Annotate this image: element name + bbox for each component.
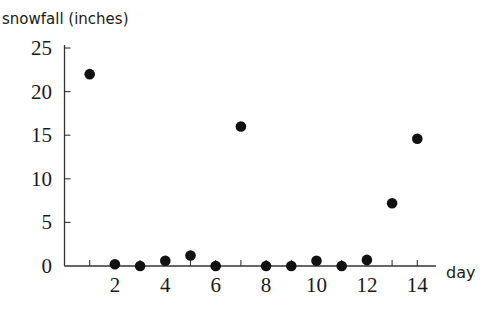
data-point xyxy=(362,255,373,266)
y-axis-title: snowfall (inches) xyxy=(2,10,129,28)
data-point xyxy=(311,255,322,266)
data-point xyxy=(84,69,95,80)
data-point xyxy=(261,261,272,272)
scatter-chart: snowfall (inches) day 0510152025 2468101… xyxy=(0,0,486,309)
axes xyxy=(65,45,437,266)
y-tick-label: 10 xyxy=(31,167,52,191)
x-tick-label: 4 xyxy=(160,273,171,297)
x-axis-title: day xyxy=(446,263,475,282)
data-point xyxy=(135,261,146,272)
data-point xyxy=(160,255,171,266)
x-tick-label: 2 xyxy=(110,273,121,297)
y-tick-label: 5 xyxy=(42,210,53,234)
y-tick-label: 0 xyxy=(42,254,53,278)
data-point xyxy=(185,250,196,261)
x-tick-label: 14 xyxy=(407,273,429,297)
x-tick-label: 10 xyxy=(306,273,327,297)
data-points xyxy=(84,69,422,271)
y-tick-label: 25 xyxy=(31,36,52,60)
data-point xyxy=(236,121,247,132)
x-tick-label: 8 xyxy=(261,273,272,297)
data-point xyxy=(387,198,398,209)
data-point xyxy=(110,259,121,270)
y-tick-label: 20 xyxy=(31,80,52,104)
data-point xyxy=(412,133,423,144)
x-tick-label: 6 xyxy=(210,273,221,297)
y-tick-label: 15 xyxy=(31,123,52,147)
x-tick-label: 12 xyxy=(356,273,377,297)
data-point xyxy=(210,261,221,272)
data-point xyxy=(286,261,297,272)
data-point xyxy=(336,261,347,272)
